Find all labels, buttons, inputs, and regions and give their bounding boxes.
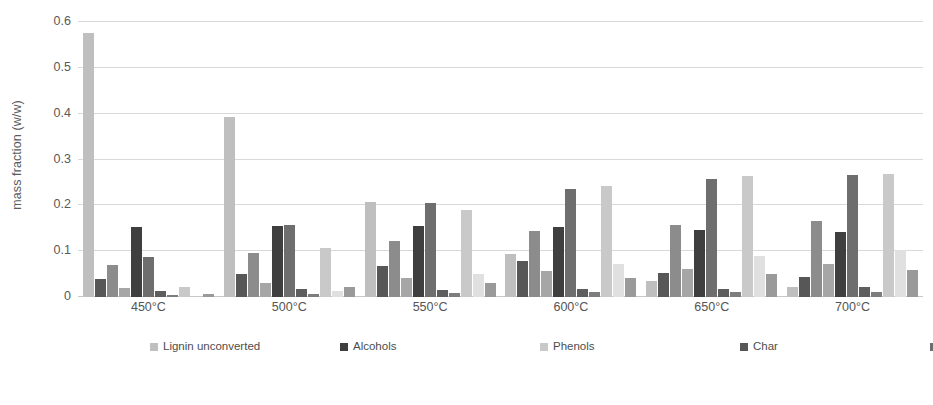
bar[interactable] xyxy=(787,287,798,297)
bar-slot xyxy=(718,22,729,297)
bar[interactable] xyxy=(907,270,918,297)
bar[interactable] xyxy=(694,230,705,297)
bar-slot xyxy=(107,22,118,297)
bar[interactable] xyxy=(401,278,412,297)
bar[interactable] xyxy=(284,225,295,297)
bar[interactable] xyxy=(541,271,552,297)
bar-slot xyxy=(119,22,130,297)
bar[interactable] xyxy=(461,210,472,297)
y-axis-title-label: mass fraction (w/w) xyxy=(10,100,24,210)
legend-item[interactable]: Char xyxy=(740,338,930,355)
bar-slot xyxy=(706,22,717,297)
bar[interactable] xyxy=(179,287,190,297)
bar[interactable] xyxy=(437,290,448,297)
bar[interactable] xyxy=(847,175,858,297)
bar[interactable] xyxy=(236,274,247,297)
bar-slot xyxy=(308,22,319,297)
bar[interactable] xyxy=(389,241,400,297)
bar[interactable] xyxy=(553,227,564,297)
bar[interactable] xyxy=(296,289,307,297)
bar[interactable] xyxy=(449,293,460,297)
bar[interactable] xyxy=(260,283,271,297)
bar[interactable] xyxy=(706,179,717,297)
legend-item[interactable]: Phenols xyxy=(540,338,740,355)
bar[interactable] xyxy=(95,279,106,297)
bar[interactable] xyxy=(131,227,142,297)
bar-slot xyxy=(131,22,142,297)
bar[interactable] xyxy=(119,288,130,297)
bar[interactable] xyxy=(155,291,166,297)
bar[interactable] xyxy=(799,277,810,297)
bar-slot xyxy=(224,22,235,297)
bar[interactable] xyxy=(308,294,319,297)
bar[interactable] xyxy=(835,232,846,297)
bar-slot xyxy=(320,22,331,297)
bar-group xyxy=(219,22,360,297)
bar[interactable] xyxy=(871,292,882,297)
bar[interactable] xyxy=(529,231,540,297)
bar-slot xyxy=(835,22,846,297)
bar[interactable] xyxy=(589,292,600,297)
bar[interactable] xyxy=(718,289,729,297)
bar[interactable] xyxy=(658,273,669,297)
bar[interactable] xyxy=(332,291,343,297)
bar[interactable] xyxy=(883,174,894,297)
bar[interactable] xyxy=(413,226,424,297)
bar-slot xyxy=(236,22,247,297)
bar[interactable] xyxy=(485,283,496,297)
bar-slot xyxy=(143,22,154,297)
bar[interactable] xyxy=(107,265,118,297)
bar[interactable] xyxy=(754,256,765,297)
bar-slot xyxy=(895,22,906,297)
legend-swatch-icon xyxy=(340,343,348,351)
bar-slot xyxy=(485,22,496,297)
bar-slot xyxy=(344,22,355,297)
bar-slot xyxy=(646,22,657,297)
bar[interactable] xyxy=(248,253,259,297)
bar[interactable] xyxy=(425,203,436,297)
bar-slot xyxy=(377,22,388,297)
bar-groups xyxy=(78,22,923,297)
legend-item[interactable]: Alcohols xyxy=(340,338,540,355)
x-axis-tick-label: 700°C xyxy=(782,300,923,326)
bar[interactable] xyxy=(143,257,154,297)
bar[interactable] xyxy=(365,202,376,297)
bar[interactable] xyxy=(682,269,693,297)
bar[interactable] xyxy=(766,274,777,297)
bar[interactable] xyxy=(167,295,178,297)
chart-legend: Lignin unconvertedAlcoholsPhenolsCharAld… xyxy=(150,338,910,355)
bar[interactable] xyxy=(646,281,657,298)
bar[interactable] xyxy=(811,221,822,297)
bar[interactable] xyxy=(344,287,355,297)
bar[interactable] xyxy=(320,248,331,297)
x-axis-tick-label: 650°C xyxy=(641,300,782,326)
bar[interactable] xyxy=(859,287,870,297)
bar-slot xyxy=(601,22,612,297)
bar[interactable] xyxy=(505,254,516,297)
y-axis-tick-label: 0.1 xyxy=(54,243,71,257)
bar[interactable] xyxy=(730,292,741,297)
bar-slot xyxy=(389,22,400,297)
bar[interactable] xyxy=(625,278,636,297)
legend-item[interactable]: Lignin unconverted xyxy=(150,338,340,355)
bar[interactable] xyxy=(473,274,484,297)
bar[interactable] xyxy=(577,289,588,297)
bar-slot xyxy=(883,22,894,297)
bar[interactable] xyxy=(83,33,94,297)
bar[interactable] xyxy=(272,226,283,297)
bar[interactable] xyxy=(377,266,388,297)
bar[interactable] xyxy=(742,176,753,297)
bar[interactable] xyxy=(823,264,834,297)
bar-slot xyxy=(670,22,681,297)
bar[interactable] xyxy=(895,250,906,297)
bar[interactable] xyxy=(203,294,214,297)
bar-slot xyxy=(529,22,540,297)
bar[interactable] xyxy=(517,261,528,297)
bar[interactable] xyxy=(670,225,681,297)
bar[interactable] xyxy=(224,117,235,297)
bar[interactable] xyxy=(565,189,576,297)
y-axis-tick-label: 0.5 xyxy=(54,60,71,74)
bar[interactable] xyxy=(613,264,624,297)
legend-item-label: Char xyxy=(753,338,778,355)
bar[interactable] xyxy=(601,186,612,297)
